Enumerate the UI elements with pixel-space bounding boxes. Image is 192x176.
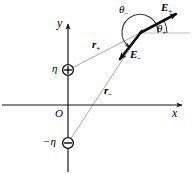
r-minus-label: r− [104, 85, 112, 99]
positive-charge-symbol [63, 65, 74, 76]
x-axis-label: x [172, 107, 177, 119]
theta-plus-label-subscript: + [162, 29, 166, 36]
y-axis-label: y [57, 17, 62, 29]
positive-charge-label: η [52, 63, 57, 74]
E-minus-label: E− [130, 49, 141, 63]
theta-minus-arc [122, 14, 158, 47]
dipole-field-figure: y x O η −η r+ r− E+ E− θ− θ+ [0, 0, 192, 176]
r-plus-label-subscript: + [96, 45, 100, 52]
E-minus-label-subscript: − [137, 55, 141, 62]
E-plus-label-subscript: + [168, 8, 172, 15]
negative-charge-label: −η [43, 136, 56, 147]
origin-label: O [55, 108, 63, 119]
theta-minus-label: θ− [119, 4, 128, 18]
E-plus-label: E+ [161, 2, 172, 16]
negative-charge-symbol [63, 138, 74, 149]
r-minus-label-subscript: − [108, 91, 112, 98]
r-plus-label: r+ [92, 39, 100, 53]
theta-minus-label-subscript: − [124, 10, 128, 17]
theta-plus-label: θ+ [157, 23, 166, 37]
